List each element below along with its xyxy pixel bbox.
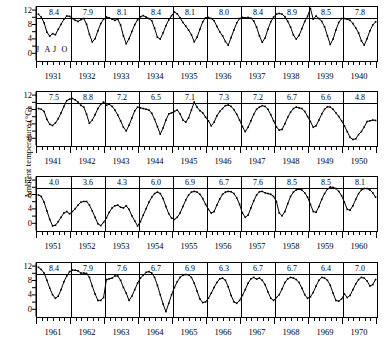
x-tick-minor bbox=[93, 62, 94, 65]
year-label-1946: 1946 bbox=[215, 156, 232, 166]
x-tick-minor bbox=[183, 232, 184, 235]
x-tick-minor bbox=[314, 62, 315, 65]
x-tick-minor bbox=[161, 232, 162, 235]
x-tick-minor bbox=[53, 232, 54, 235]
year-label-1953: 1953 bbox=[113, 241, 130, 251]
x-tick-minor bbox=[110, 232, 111, 235]
x-tick-minor bbox=[144, 232, 145, 235]
x-tick-major bbox=[274, 318, 275, 324]
x-tick-major bbox=[70, 147, 71, 153]
x-tick-minor bbox=[285, 232, 286, 235]
x-tick-minor bbox=[217, 318, 218, 321]
x-tick-minor bbox=[144, 147, 145, 150]
x-tick-minor bbox=[98, 62, 99, 65]
x-tick-minor bbox=[132, 318, 133, 321]
x-axis: 1941194219431944194519461947194819491950 bbox=[36, 147, 378, 169]
x-tick-minor bbox=[291, 62, 292, 65]
year-label-1968: 1968 bbox=[283, 327, 300, 337]
x-tick-minor bbox=[149, 147, 150, 150]
x-tick-minor bbox=[234, 318, 235, 321]
x-axis: 1951195219531954195519561957195819591960 bbox=[36, 232, 378, 254]
year-label-1936: 1936 bbox=[215, 71, 232, 81]
x-tick-minor bbox=[212, 62, 213, 65]
x-tick-minor bbox=[229, 318, 230, 321]
x-tick-minor bbox=[336, 147, 337, 150]
x-tick-minor bbox=[195, 147, 196, 150]
x-tick-major bbox=[172, 318, 173, 324]
year-label-1956: 1956 bbox=[215, 241, 232, 251]
x-tick-minor bbox=[353, 232, 354, 235]
temperature-series bbox=[37, 7, 377, 61]
x-tick-minor bbox=[263, 232, 264, 235]
x-tick-major bbox=[206, 318, 207, 324]
x-tick-minor bbox=[161, 318, 162, 321]
x-tick-minor bbox=[348, 232, 349, 235]
x-tick-major bbox=[240, 62, 241, 68]
x-tick-minor bbox=[64, 62, 65, 65]
x-tick-minor bbox=[331, 147, 332, 150]
x-tick-minor bbox=[353, 147, 354, 150]
x-tick-minor bbox=[314, 318, 315, 321]
x-tick-minor bbox=[189, 232, 190, 235]
x-tick-minor bbox=[229, 147, 230, 150]
year-label-1932: 1932 bbox=[79, 71, 96, 81]
month-marker-j: J bbox=[53, 46, 56, 54]
x-tick-minor bbox=[87, 232, 88, 235]
x-tick-minor bbox=[183, 147, 184, 150]
x-tick-major bbox=[104, 62, 105, 68]
x-tick-major bbox=[376, 62, 377, 68]
chart-row-1941-1950: 128407.58.87.26.57.17.37.26.76.64.819411… bbox=[0, 85, 390, 170]
year-label-1958: 1958 bbox=[283, 241, 300, 251]
x-tick-minor bbox=[110, 318, 111, 321]
x-tick-minor bbox=[76, 318, 77, 321]
year-label-1942: 1942 bbox=[79, 156, 96, 166]
x-tick-minor bbox=[47, 232, 48, 235]
x-tick-minor bbox=[149, 318, 150, 321]
year-label-1952: 1952 bbox=[79, 241, 96, 251]
x-tick-minor bbox=[81, 147, 82, 150]
x-tick-minor bbox=[291, 318, 292, 321]
x-tick-minor bbox=[64, 232, 65, 235]
x-tick-minor bbox=[285, 147, 286, 150]
x-tick-minor bbox=[251, 318, 252, 321]
x-tick-minor bbox=[291, 147, 292, 150]
x-tick-minor bbox=[302, 62, 303, 65]
year-label-1945: 1945 bbox=[181, 156, 198, 166]
x-tick-minor bbox=[325, 147, 326, 150]
x-tick-minor bbox=[121, 147, 122, 150]
x-tick-minor bbox=[183, 318, 184, 321]
x-tick-minor bbox=[110, 147, 111, 150]
x-tick-minor bbox=[127, 147, 128, 150]
x-tick-minor bbox=[302, 318, 303, 321]
x-tick-minor bbox=[234, 232, 235, 235]
x-tick-minor bbox=[42, 62, 43, 65]
x-tick-major bbox=[308, 147, 309, 153]
x-tick-minor bbox=[42, 318, 43, 321]
x-tick-major bbox=[138, 232, 139, 238]
x-tick-minor bbox=[257, 232, 258, 235]
x-tick-minor bbox=[195, 318, 196, 321]
x-tick-minor bbox=[246, 62, 247, 65]
year-label-1933: 1933 bbox=[113, 71, 130, 81]
x-tick-minor bbox=[223, 318, 224, 321]
x-tick-minor bbox=[319, 318, 320, 321]
x-tick-minor bbox=[53, 62, 54, 65]
x-tick-minor bbox=[223, 147, 224, 150]
x-tick-minor bbox=[178, 62, 179, 65]
x-tick-minor bbox=[189, 62, 190, 65]
x-tick-major bbox=[104, 147, 105, 153]
x-tick-minor bbox=[353, 62, 354, 65]
x-tick-minor bbox=[64, 318, 65, 321]
plot-area: 8.47.97.66.76.96.36.76.76.47.0 bbox=[36, 262, 378, 318]
x-tick-minor bbox=[325, 318, 326, 321]
x-tick-minor bbox=[268, 232, 269, 235]
x-tick-minor bbox=[81, 232, 82, 235]
x-tick-minor bbox=[76, 147, 77, 150]
x-tick-minor bbox=[251, 62, 252, 65]
x-tick-minor bbox=[348, 62, 349, 65]
x-tick-minor bbox=[234, 62, 235, 65]
x-tick-minor bbox=[234, 147, 235, 150]
x-tick-major bbox=[342, 62, 343, 68]
x-tick-minor bbox=[217, 232, 218, 235]
x-tick-minor bbox=[53, 318, 54, 321]
